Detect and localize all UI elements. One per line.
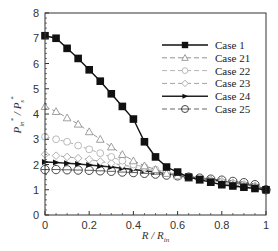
x-tick-label: 0.6 bbox=[170, 219, 185, 231]
legend-item: Case 22 bbox=[162, 65, 250, 77]
legend-label: Case 23 bbox=[215, 77, 251, 89]
circle-marker bbox=[119, 157, 126, 164]
square-marker bbox=[108, 90, 116, 98]
square-marker bbox=[96, 77, 104, 85]
line-chart: 01234567800.20.40.60.81 Case 1Case 21Cas… bbox=[0, 0, 278, 251]
circle-marker bbox=[97, 150, 104, 157]
square-marker bbox=[251, 185, 259, 193]
square-marker bbox=[218, 181, 226, 189]
y-tick-label: 0 bbox=[33, 209, 39, 221]
y-tick-label: 1 bbox=[33, 184, 39, 196]
y-tick-label: 3 bbox=[33, 133, 39, 145]
y-axis-title: Pin* / Ps* bbox=[9, 96, 26, 135]
circle-marker bbox=[86, 146, 93, 153]
square-marker bbox=[185, 173, 193, 181]
square-marker bbox=[141, 138, 149, 146]
circle-marker bbox=[75, 142, 82, 149]
y-tick-label: 5 bbox=[33, 83, 39, 95]
square-marker bbox=[229, 182, 237, 190]
triangle-right-marker bbox=[182, 94, 188, 99]
triangle-marker bbox=[108, 143, 116, 150]
y-tick-label: 2 bbox=[33, 159, 39, 171]
legend-label: Case 24 bbox=[215, 90, 251, 102]
legend-label: Case 21 bbox=[215, 52, 250, 64]
triangle-marker bbox=[130, 157, 138, 164]
square-marker bbox=[207, 178, 215, 186]
triangle-marker bbox=[52, 108, 60, 115]
square-marker bbox=[52, 34, 60, 42]
square-marker bbox=[119, 103, 127, 111]
square-marker bbox=[182, 42, 188, 48]
triangle-marker bbox=[63, 114, 71, 121]
circle-marker bbox=[53, 136, 60, 143]
legend-label: Case 25 bbox=[215, 103, 251, 115]
square-marker bbox=[74, 55, 82, 63]
legend-label: Case 22 bbox=[215, 65, 250, 77]
square-marker bbox=[85, 66, 93, 74]
x-tick-label: 0.8 bbox=[214, 219, 229, 231]
triangle-marker bbox=[85, 128, 93, 135]
y-tick-label: 6 bbox=[33, 58, 39, 70]
diamond-marker bbox=[52, 152, 60, 160]
y-tick-label: 4 bbox=[33, 108, 39, 120]
x-tick-label: 0 bbox=[42, 219, 48, 231]
circle-marker bbox=[108, 154, 115, 161]
triangle-marker bbox=[119, 151, 127, 158]
square-marker bbox=[63, 45, 71, 53]
triangle-marker bbox=[96, 135, 104, 142]
triangle-marker bbox=[74, 120, 82, 127]
triangle-right-marker bbox=[53, 159, 60, 165]
square-marker bbox=[240, 183, 248, 191]
x-tick-label: 0.2 bbox=[82, 219, 97, 231]
square-marker bbox=[196, 176, 204, 184]
square-marker bbox=[163, 163, 171, 171]
square-marker bbox=[152, 153, 160, 161]
legend-label: Case 1 bbox=[215, 39, 245, 51]
circle-marker bbox=[64, 138, 71, 145]
square-marker bbox=[174, 168, 182, 176]
legend-item: Case 1 bbox=[162, 39, 245, 51]
circle-marker bbox=[182, 68, 188, 74]
legend-item: Case 25 bbox=[162, 103, 251, 115]
legend-item: Case 24 bbox=[162, 90, 251, 102]
x-axis-title: R / Rin bbox=[141, 229, 170, 244]
x-tick-label: 0.4 bbox=[126, 219, 141, 231]
diamond-marker bbox=[63, 153, 71, 161]
diamond-marker bbox=[85, 156, 93, 164]
legend-item: Case 21 bbox=[162, 52, 250, 64]
y-tick-label: 8 bbox=[33, 7, 39, 19]
legend: Case 1Case 21Case 22Case 23Case 24Case 2… bbox=[162, 39, 251, 115]
legend-item: Case 23 bbox=[162, 77, 251, 89]
diamond-marker bbox=[74, 154, 82, 162]
diamond-marker bbox=[182, 80, 188, 86]
y-tick-label: 7 bbox=[33, 32, 39, 44]
square-marker bbox=[130, 115, 138, 123]
x-tick-label: 1 bbox=[263, 219, 269, 231]
